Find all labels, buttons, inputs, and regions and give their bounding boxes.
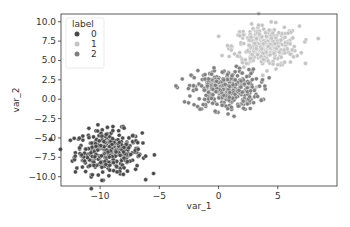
data-point xyxy=(174,84,178,88)
data-point xyxy=(264,34,268,38)
data-point xyxy=(186,101,190,105)
data-point xyxy=(101,170,105,174)
data-point xyxy=(277,50,281,54)
data-point xyxy=(291,36,295,40)
data-point xyxy=(254,37,258,41)
data-point xyxy=(241,99,245,103)
data-point xyxy=(274,67,278,71)
data-point xyxy=(248,56,252,60)
data-point xyxy=(282,48,286,52)
data-point xyxy=(242,41,246,45)
data-point xyxy=(246,49,250,53)
data-point xyxy=(246,81,250,85)
data-point xyxy=(239,85,243,89)
data-point xyxy=(282,25,286,29)
data-point xyxy=(248,95,252,99)
data-point xyxy=(261,42,265,46)
data-point xyxy=(87,136,91,140)
data-point xyxy=(88,164,92,168)
data-point xyxy=(211,101,215,105)
data-point xyxy=(276,63,280,67)
data-point xyxy=(225,78,229,82)
data-point xyxy=(137,153,141,157)
data-point xyxy=(186,86,190,90)
data-point xyxy=(133,167,137,171)
x-tick-label: −10 xyxy=(91,191,110,201)
data-point xyxy=(209,96,213,100)
data-point xyxy=(233,78,237,82)
scatter-chart: −10−505 10.07.55.02.50.0−2.5−5.0−7.5−10.… xyxy=(0,0,350,227)
data-point xyxy=(269,20,273,24)
data-point xyxy=(99,143,103,147)
data-point xyxy=(194,87,198,91)
y-tick-label: −5.0 xyxy=(34,133,56,143)
x-tick-label: −5 xyxy=(153,191,166,201)
data-point xyxy=(99,154,103,158)
data-point xyxy=(235,74,239,78)
data-point xyxy=(107,174,111,178)
data-point xyxy=(97,139,101,143)
data-point xyxy=(201,102,205,106)
data-point xyxy=(257,11,261,15)
data-point xyxy=(80,153,84,157)
data-point xyxy=(203,97,207,101)
data-point xyxy=(84,147,88,151)
data-point xyxy=(140,131,144,135)
data-point xyxy=(141,141,145,145)
x-axis: −10−505 xyxy=(91,186,281,201)
data-point xyxy=(144,154,148,158)
data-point xyxy=(144,178,148,182)
legend-title: label xyxy=(72,19,94,29)
data-point xyxy=(217,96,221,100)
y-tick-label: −7.5 xyxy=(34,152,56,162)
data-point xyxy=(263,84,267,88)
data-point xyxy=(125,169,129,173)
data-point xyxy=(283,35,287,39)
data-point xyxy=(205,84,209,88)
data-point xyxy=(226,107,230,111)
data-point xyxy=(241,33,245,37)
data-point xyxy=(215,79,219,83)
data-point xyxy=(231,83,235,87)
data-point xyxy=(227,54,231,58)
y-axis-label: var_2 xyxy=(11,88,21,113)
data-point xyxy=(89,151,93,155)
data-point xyxy=(303,40,307,44)
data-point xyxy=(252,101,256,105)
data-point xyxy=(245,102,249,106)
data-point xyxy=(243,58,247,62)
data-point xyxy=(232,114,236,118)
data-point xyxy=(111,161,115,165)
data-point xyxy=(108,168,112,172)
data-point xyxy=(83,169,87,173)
data-point xyxy=(202,88,206,92)
data-point xyxy=(100,178,104,182)
data-point xyxy=(110,142,114,146)
data-point xyxy=(90,173,94,177)
data-point xyxy=(236,104,240,108)
data-point xyxy=(90,141,94,145)
data-point xyxy=(250,77,254,81)
legend-entry: 1 xyxy=(91,39,97,49)
data-point xyxy=(77,136,81,140)
data-point xyxy=(249,71,253,75)
data-point xyxy=(196,68,200,72)
legend-entry: 2 xyxy=(91,49,97,59)
data-point xyxy=(115,170,119,174)
data-point xyxy=(245,74,249,78)
data-point xyxy=(222,78,226,82)
data-point xyxy=(122,126,126,130)
legend-marker-icon xyxy=(75,32,80,37)
data-point xyxy=(255,53,259,57)
data-point xyxy=(239,79,243,83)
data-point xyxy=(127,136,131,140)
data-point xyxy=(73,170,77,174)
data-point xyxy=(248,106,252,110)
data-point xyxy=(270,36,274,40)
data-point xyxy=(94,144,98,148)
data-point xyxy=(198,107,202,111)
data-point xyxy=(225,44,229,48)
data-point xyxy=(114,150,118,154)
data-point xyxy=(105,125,109,129)
data-point xyxy=(192,103,196,107)
